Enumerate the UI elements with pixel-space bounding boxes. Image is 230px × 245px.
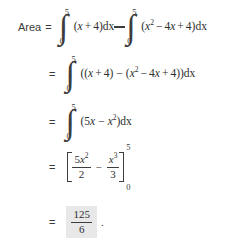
integral-sign-1: 5 ∫ 0 [58,10,73,44]
fraction-denominator-3: 3 [108,168,118,181]
plus-sign-1: + [83,20,94,32]
equals-sign-5: = [49,217,66,228]
equals-sign-2: = [49,69,64,80]
integral-lower-limit-2: 0 [127,37,131,46]
plus-sign-2: + [175,20,186,32]
variable-x-1: x [78,20,83,32]
paren-close-double: )) [176,67,184,79]
result-numerator: 125 [71,209,92,222]
equation-line-4: = 5 5x2 2 − x3 3 0 [49,152,125,182]
integral-lower-limit-1: 0 [60,37,64,46]
integrand-3: ((x+4)−(x2−4x+4))dx [80,68,195,80]
integral-lower-limit-4: 0 [66,132,70,141]
equals-sign-3: = [49,117,64,128]
bracket-minus-operator: − [91,162,107,173]
minus-sign-2: − [154,20,165,32]
result-denominator: 6 [77,223,87,236]
differential-dx-3: dx [184,67,196,79]
bracket-lower-limit: 0 [126,183,130,192]
terminal-period: . [97,217,104,228]
integral-lower-limit-3: 0 [66,84,70,93]
fraction-numerator-1: 5x2 [72,154,90,167]
minus-sign-5: − [95,115,108,127]
equation-line-3: = 5 ∫ 0 (5x−x2)dx [49,105,132,139]
integral-sign-4: 5 ∫ 0 [64,105,79,139]
fraction-denominator-2: 2 [77,168,87,181]
exponent-2b: 2 [135,65,139,74]
differential-dx-4: dx [120,115,132,127]
plus-sign-4: + [160,67,171,79]
minus-sign-3: − [113,67,126,79]
final-answer-highlight: 125 6 [66,206,97,238]
equation-line-1: Area = 5 ∫ 0 (x+4)dx 5 ∫ 0 (x2−4x+4)dx [18,10,207,44]
paren-open-double: (( [80,67,88,79]
evaluation-brackets: 5 5x2 2 − x3 3 0 [67,152,124,182]
equation-line-2: = 5 ∫ 0 ((x+4)−(x2−4x+4))dx [49,57,195,91]
final-result-fraction: 125 6 [71,209,92,235]
minus-sign-4: − [139,67,150,79]
area-label: Area [18,22,41,33]
numerator-exponent-2: 2 [85,151,89,160]
differential-dx-2: dx [195,20,207,32]
equals-sign-4: = [49,162,66,173]
numerator-exponent-3: 3 [114,151,118,160]
integral-sign-2: 5 ∫ 0 [125,10,140,44]
subtraction-operator [114,26,125,27]
fraction-first-term: 5x2 2 [72,154,90,180]
equation-line-5-result: = 125 6 . [49,206,104,238]
differential-dx-1: dx [103,20,115,32]
math-derivation: Area = 5 ∫ 0 (x+4)dx 5 ∫ 0 (x2−4x+4)dx =… [0,0,230,245]
integrand-4: (5x−x2)dx [80,116,131,128]
integrand-1: (x+4)dx [74,21,115,33]
plus-sign-3: + [93,67,104,79]
integrand-2: (x2−4x+4)dx [141,21,207,33]
equals-sign-1: = [41,22,57,33]
fraction-numerator-2: x3 [107,154,120,167]
integral-sign-3: 5 ∫ 0 [64,57,79,91]
fraction-second-term: x3 3 [107,154,120,180]
bracket-upper-limit: 5 [126,143,130,152]
